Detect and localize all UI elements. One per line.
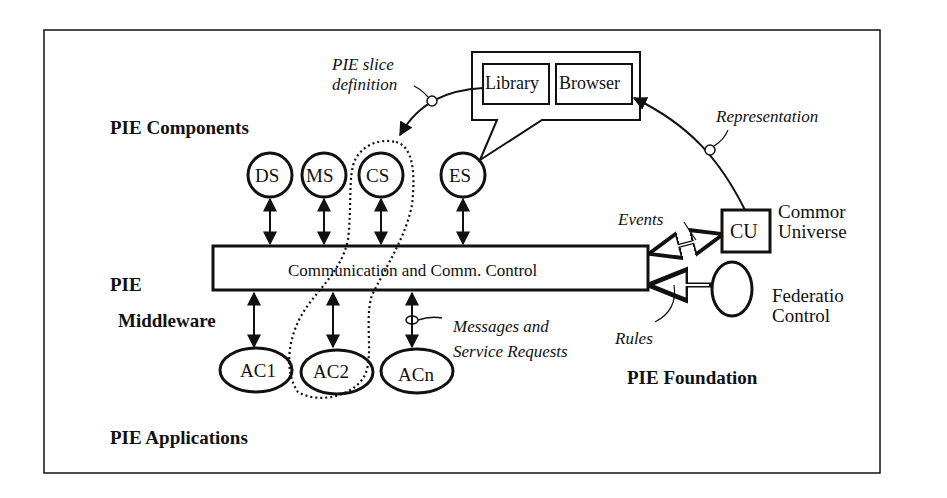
federation-control-line1: Federatio xyxy=(772,286,844,305)
common-universe-abbr: CU xyxy=(730,221,758,241)
messages-leader-line xyxy=(418,317,442,320)
federation-control-line2: Control xyxy=(772,306,830,325)
application-label-ac1: AC1 xyxy=(240,361,276,380)
events-arrow-inner xyxy=(656,236,716,252)
component-label-es: ES xyxy=(449,166,471,185)
diagram-canvas xyxy=(0,0,947,498)
federation-control-node xyxy=(712,262,752,316)
annotation-slice-line2: definition xyxy=(332,76,397,93)
layer-label-middleware-line2: Middleware xyxy=(118,311,216,330)
annotation-rules: Rules xyxy=(615,330,653,347)
layer-label-foundation: PIE Foundation xyxy=(627,368,757,387)
middleware-bus-label: Communication and Comm. Control xyxy=(288,262,537,279)
component-label-ds: DS xyxy=(255,166,279,185)
annotation-messages-line2: Service Requests xyxy=(453,343,568,360)
slice-definition-arrow xyxy=(400,88,483,135)
annotation-events: Events xyxy=(618,211,663,228)
events-leader-line xyxy=(684,222,696,240)
annotation-slice-line1: PIE slice xyxy=(332,56,394,73)
slice-marker-icon xyxy=(427,96,437,106)
annotation-representation: Representation xyxy=(716,108,818,125)
component-label-cs: CS xyxy=(366,166,389,185)
application-label-acn: ACn xyxy=(398,365,434,384)
layer-label-components: PIE Components xyxy=(110,118,249,137)
rules-leader-line xyxy=(655,285,675,322)
representation-leader-line xyxy=(714,130,728,146)
common-universe-line1: Commor xyxy=(778,202,846,221)
common-universe-line2: Universe xyxy=(778,222,847,241)
application-label-ac2: AC2 xyxy=(313,362,349,381)
library-label: Library xyxy=(485,74,539,92)
component-label-ms: MS xyxy=(306,166,333,185)
representation-marker-icon xyxy=(705,145,715,155)
slice-leader-line xyxy=(414,86,428,97)
layer-label-middleware-line1: PIE xyxy=(110,275,142,294)
layer-label-applications: PIE Applications xyxy=(110,428,248,447)
browser-label: Browser xyxy=(559,74,620,92)
annotation-messages-line1: Messages and xyxy=(453,318,549,335)
